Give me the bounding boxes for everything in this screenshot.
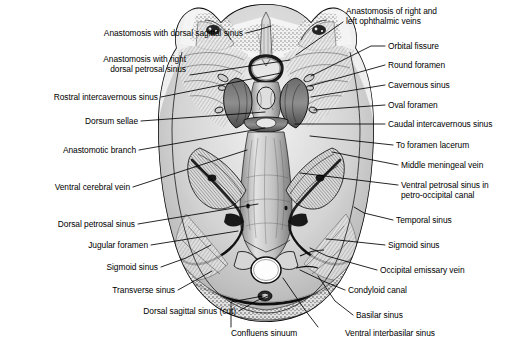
label-line: Sigmoid sinus [107, 262, 159, 272]
label-basilar-sinus: Basilar sinus [356, 310, 403, 320]
label-rostral-intercavernous-sinus: Rostral intercavernous sinus [54, 92, 158, 102]
label-line: Ventral petrosal sinus in [401, 180, 489, 190]
label-line: Sigmoid sinus [388, 240, 440, 250]
label-line: Caudal intercavernous sinus [388, 119, 492, 129]
label-line: Anastomosis with dorsal sagittal sinus [104, 28, 243, 38]
label-line: Anastomosis of right and [346, 6, 437, 16]
label-line: Oval foramen [388, 100, 438, 110]
label-anastomotic-branch: Anastomotic branch [63, 145, 136, 155]
label-line: Temporal sinus [396, 215, 452, 225]
label-line: To foramen lacerum [396, 140, 469, 150]
label-dorsal-sagittal-sinus-cut: Dorsal sagittal sinus (cut) [143, 306, 236, 316]
label-line: Middle meningeal vein [401, 160, 483, 170]
label-anastomosis-dorsal-sagittal-sinus: Anastomosis with dorsal sagittal sinus [104, 28, 243, 38]
label-line: Jugular foramen [88, 240, 148, 250]
label-orbital-fissure: Orbital fissure [388, 41, 439, 51]
label-line: Dorsum sellae [85, 116, 138, 126]
label-line: Ventral interbasilar sinus [345, 328, 532, 338]
label-text-layer: Anastomosis with dorsal sagittal sinusAn… [0, 0, 532, 341]
label-line: Cavernous sinus [388, 80, 450, 90]
label-sigmoid-sinus-left: Sigmoid sinus [107, 262, 159, 272]
label-line: Dorsal petrosal sinus [58, 219, 135, 229]
label-line: Transverse sinus [112, 285, 175, 295]
label-ventral-interbasilar-sinus: Ventral interbasilar sinus [0, 328, 532, 338]
label-anastomosis-right-dorsal-petrosal-sinus: Anastomosis with rightdorsal petrosal si… [103, 54, 186, 74]
label-middle-meningeal-vein: Middle meningeal vein [401, 160, 483, 170]
label-dorsal-petrosal-sinus: Dorsal petrosal sinus [58, 219, 135, 229]
label-jugular-foramen: Jugular foramen [88, 240, 148, 250]
label-anastomosis-ophthalmic-veins: Anastomosis of right andleft ophthalmic … [346, 6, 437, 26]
label-line: Ventral cerebral vein [55, 182, 130, 192]
label-line: petro-occipital canal [401, 190, 489, 200]
label-dorsum-sellae: Dorsum sellae [85, 116, 138, 126]
label-line: Basilar sinus [356, 310, 403, 320]
label-ventral-petrosal-sinus: Ventral petrosal sinus inpetro-occipital… [401, 180, 489, 200]
label-line: Dorsal sagittal sinus (cut) [143, 306, 236, 316]
label-ventral-cerebral-vein: Ventral cerebral vein [55, 182, 130, 192]
label-line: Condyloid canal [348, 285, 407, 295]
label-line: Round foramen [388, 60, 445, 70]
label-line: Occipital emissary vein [380, 265, 465, 275]
label-condyloid-canal: Condyloid canal [348, 285, 407, 295]
label-occipital-emissary-vein: Occipital emissary vein [380, 265, 465, 275]
label-line: Rostral intercavernous sinus [54, 92, 158, 102]
label-line: dorsal petrosal sinus [103, 64, 186, 74]
label-caudal-intercavernous-sinus: Caudal intercavernous sinus [388, 119, 492, 129]
anatomical-figure: Anastomosis with dorsal sagittal sinusAn… [0, 0, 532, 341]
label-line: Anastomosis with right [103, 54, 186, 64]
label-line: Orbital fissure [388, 41, 439, 51]
label-sigmoid-sinus-right: Sigmoid sinus [388, 240, 440, 250]
label-temporal-sinus: Temporal sinus [396, 215, 452, 225]
label-transverse-sinus: Transverse sinus [112, 285, 175, 295]
label-oval-foramen: Oval foramen [388, 100, 438, 110]
label-line: left ophthalmic veins [346, 16, 437, 26]
label-round-foramen: Round foramen [388, 60, 445, 70]
label-line: Anastomotic branch [63, 145, 136, 155]
label-cavernous-sinus: Cavernous sinus [388, 80, 450, 90]
label-to-foramen-lacerum: To foramen lacerum [396, 140, 469, 150]
